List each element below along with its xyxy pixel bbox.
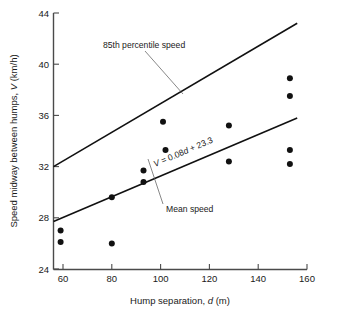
data-point xyxy=(163,147,169,153)
data-point xyxy=(226,123,232,129)
y-tick-label: 32 xyxy=(38,161,49,172)
chart-figure: 44 40 36 32 28 24 60 80 100 120 140 160 … xyxy=(0,0,340,316)
x-tick-label: 80 xyxy=(107,273,118,284)
x-axis-title-main: Hump separation, xyxy=(130,295,208,306)
y-tick-label: 40 xyxy=(38,59,49,70)
x-axis-title: Hump separation, d (m) xyxy=(130,295,230,306)
data-point xyxy=(287,147,293,153)
data-point xyxy=(58,239,64,245)
data-point xyxy=(226,158,232,164)
y-axis-title-main: Speed midway between humps, xyxy=(8,90,19,227)
data-point xyxy=(287,75,293,81)
y-tick-label: 24 xyxy=(38,264,49,275)
x-tick-label: 100 xyxy=(153,273,169,284)
speed-vs-hump-separation-chart: 44 40 36 32 28 24 60 80 100 120 140 160 … xyxy=(0,0,340,316)
mean-speed-label: Mean speed xyxy=(166,204,214,214)
x-tick-label: 60 xyxy=(58,273,69,284)
data-point xyxy=(160,119,166,125)
y-tick-label: 44 xyxy=(38,8,49,19)
data-point xyxy=(141,167,147,173)
x-tick-label: 160 xyxy=(299,273,315,284)
data-point xyxy=(109,240,115,246)
y-axis-title: Speed midway between humps, V (km/h) xyxy=(8,54,19,227)
y-tick-label: 36 xyxy=(38,110,49,121)
x-axis-title-unit: (m) xyxy=(213,295,230,306)
data-point xyxy=(141,179,147,185)
x-tick-label: 140 xyxy=(250,273,266,284)
x-tick-label: 120 xyxy=(201,273,217,284)
data-point xyxy=(109,194,115,200)
data-point xyxy=(58,228,64,234)
data-point xyxy=(287,161,293,167)
y-tick-label: 28 xyxy=(38,212,49,223)
data-point xyxy=(287,93,293,99)
y-axis-title-unit: (km/h) xyxy=(8,54,19,84)
percentile-85-label: 85th percentile speed xyxy=(103,40,185,50)
